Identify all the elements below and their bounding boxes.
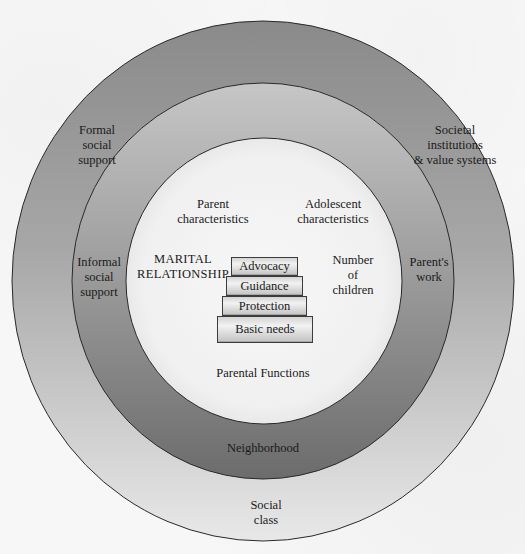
label-parental-functions: Parental Functions — [203, 366, 323, 381]
label-societal-institutions: Societal institutions & value systems — [397, 123, 513, 168]
step-guidance: Guidance — [226, 276, 303, 296]
label-number-of-children: Number of children — [323, 253, 383, 298]
label-social-class: Social class — [226, 498, 306, 528]
step-basic-needs: Basic needs — [217, 316, 313, 343]
step-advocacy: Advocacy — [231, 257, 298, 276]
step-protection: Protection — [222, 296, 307, 316]
label-parent-characteristics: Parent characteristics — [158, 197, 268, 227]
label-neighborhood: Neighborhood — [213, 441, 313, 456]
label-marital-relationship: MARITAL RELATIONSHIP — [128, 252, 238, 282]
label-formal-social-support: Formal social support — [62, 123, 132, 168]
label-parents-work: Parent's work — [403, 255, 455, 285]
label-informal-social-support: Informal social support — [72, 255, 126, 300]
label-adolescent-characteristics: Adolescent characteristics — [274, 197, 392, 227]
